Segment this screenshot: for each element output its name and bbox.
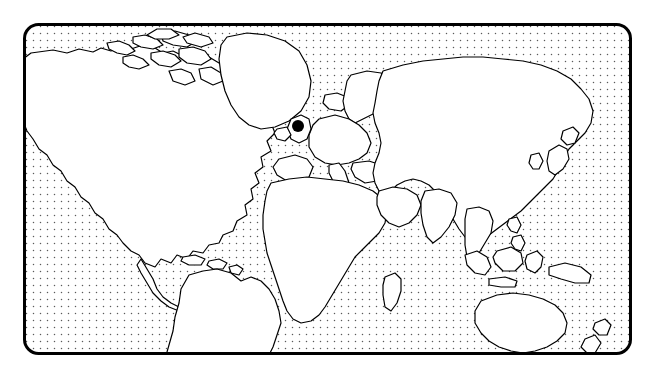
map-canvas[interactable]	[23, 23, 632, 355]
location-marker[interactable]	[292, 120, 304, 132]
map-frame[interactable]	[23, 23, 632, 355]
world-map-figure	[0, 0, 655, 378]
